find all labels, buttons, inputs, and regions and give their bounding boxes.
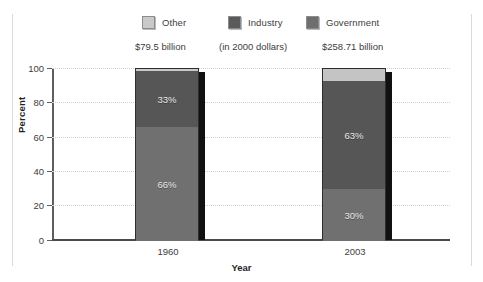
- bar-label-1960-industry: 33%: [157, 94, 176, 105]
- bar-segment-2003-other[interactable]: [323, 69, 385, 81]
- legend-item-other[interactable]: Other: [142, 13, 186, 31]
- y-tick-mark-60: [47, 137, 52, 138]
- legend-item-government[interactable]: Government: [306, 13, 379, 31]
- y-axis-line: [52, 68, 54, 240]
- x-axis-title: Year: [0, 262, 483, 273]
- y-tick-mark-40: [47, 171, 52, 172]
- y-tick-mark-20: [47, 205, 52, 206]
- legend-swatch-industry: [228, 16, 241, 29]
- bar-segment-1960-government[interactable]: 66%: [136, 127, 198, 241]
- y-tick-label-60: 60: [33, 131, 44, 142]
- bar-label-2003-government: 30%: [344, 210, 363, 221]
- y-tick-label-80: 80: [33, 97, 44, 108]
- bar-segment-2003-government[interactable]: 30%: [323, 189, 385, 241]
- bar-group-1960[interactable]: 33% 66%: [135, 68, 199, 240]
- figure-border-right: [471, 14, 472, 266]
- y-tick-label-0: 0: [39, 234, 44, 245]
- bar-segment-1960-industry[interactable]: 33%: [136, 71, 198, 128]
- plot-area: 100 80 60 40 20 0: [52, 68, 450, 240]
- bar-label-1960-government: 66%: [157, 179, 176, 190]
- bar-stack-2003: 63% 30%: [322, 68, 386, 240]
- bar-stack-1960: 33% 66%: [135, 68, 199, 240]
- legend-item-industry[interactable]: Industry: [228, 13, 283, 31]
- legend-label-industry: Industry: [248, 17, 283, 28]
- bar-label-2003-industry: 63%: [344, 130, 363, 141]
- legend-swatch-other: [142, 16, 155, 29]
- y-tick-mark-100: [47, 68, 52, 69]
- bar-segment-2003-industry[interactable]: 63%: [323, 81, 385, 189]
- y-tick-label-100: 100: [28, 63, 44, 74]
- legend-swatch-government: [306, 16, 319, 29]
- y-tick-mark-80: [47, 102, 52, 103]
- x-tick-label-1960: 1960: [133, 246, 203, 257]
- legend-label-government: Government: [326, 17, 379, 28]
- gridline-100: [52, 68, 450, 70]
- legend-label-other: Other: [162, 17, 186, 28]
- chart-figure: Other Industry Government $79.5 billion …: [0, 0, 483, 282]
- y-axis-title: Percent: [16, 97, 27, 133]
- annotation-total-2003: $258.71 billion: [322, 41, 383, 52]
- figure-border-left: [12, 14, 13, 266]
- chart-legend: Other Industry Government: [140, 13, 400, 33]
- y-tick-label-20: 20: [33, 200, 44, 211]
- annotation-currency-basis: (in 2000 dollars): [219, 41, 287, 52]
- annotation-total-1960: $79.5 billion: [135, 41, 186, 52]
- y-tick-mark-0: [47, 240, 52, 241]
- bar-group-2003[interactable]: 63% 30%: [322, 68, 386, 240]
- y-tick-label-40: 40: [33, 165, 44, 176]
- x-tick-label-2003: 2003: [320, 246, 390, 257]
